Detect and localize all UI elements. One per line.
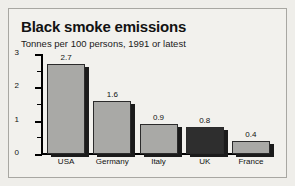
bar-value-label: 0.9 [140,113,178,122]
bar-value-label: 0.4 [232,130,270,139]
bar-france[interactable] [232,141,270,154]
bar-group-usa[interactable]: 2.7USA [47,54,85,154]
y-tick-mark [35,87,42,89]
y-tick-label: 2 [15,82,19,90]
bar-value-label: 2.7 [47,53,85,62]
x-axis-label-uk: UK [180,157,230,166]
y-tick-minor [37,137,42,138]
plot-area: 0123 2.7USA1.6Germany0.9Italy0.8UK0.4Fra… [21,54,276,172]
y-tick-minor [37,104,42,105]
bar-group-italy[interactable]: 0.9Italy [140,54,178,154]
x-axis-label-germany: Germany [87,157,137,166]
bar-group-germany[interactable]: 1.6Germany [93,54,131,154]
bar-uk[interactable] [186,127,224,154]
y-tick-mark [35,121,42,123]
y-tick-label: 1 [15,116,19,124]
chart-figure: Black smoke emissions Tonnes per 100 per… [8,8,287,178]
y-tick-mark [35,54,42,56]
x-axis-label-usa: USA [41,157,91,166]
bar-usa[interactable] [47,64,85,154]
bar-value-label: 1.6 [93,90,131,99]
chart-title: Black smoke emissions [21,18,186,35]
bar-series: 2.7USA1.6Germany0.9Italy0.8UK0.4France [43,54,274,154]
bar-germany[interactable] [93,101,131,154]
bar-group-france[interactable]: 0.4France [232,54,270,154]
bar-italy[interactable] [140,124,178,154]
bar-group-uk[interactable]: 0.8UK [186,54,224,154]
x-axis-label-italy: Italy [134,157,184,166]
y-tick-label: 3 [15,49,19,57]
chart-subtitle: Tonnes per 100 persons, 1991 or latest [21,38,186,49]
x-axis-label-france: France [226,157,276,166]
y-tick-label: 0 [15,149,19,157]
y-tick-minor [37,71,42,72]
bar-value-label: 0.8 [186,116,224,125]
y-tick-mark [35,154,42,156]
